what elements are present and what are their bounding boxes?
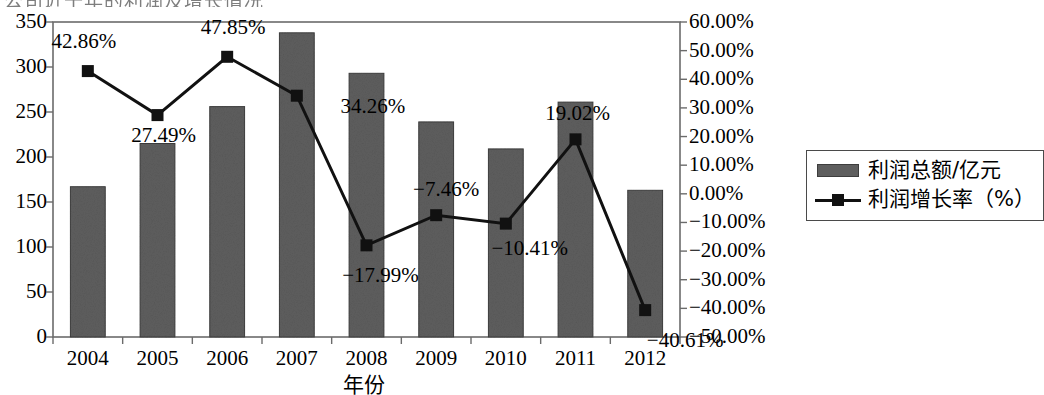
bar-2007 <box>279 33 314 337</box>
legend-item-bar: 利润总额/亿元 <box>815 156 1035 185</box>
data-label-2011: 19.02% <box>523 103 633 124</box>
marker-2011 <box>570 133 582 145</box>
bar-2005 <box>140 144 175 338</box>
data-label-2006: 47.85% <box>178 17 288 38</box>
data-label-2005: 27.49% <box>109 125 219 146</box>
data-label-2010: −10.41% <box>475 238 585 259</box>
marker-2006 <box>221 51 233 63</box>
data-label-2004: 42.86% <box>29 31 139 52</box>
legend-bar-label: 利润总额/亿元 <box>868 160 1001 181</box>
legend-line-label: 利润增长率（%） <box>868 189 1035 210</box>
data-label-2008: −17.99% <box>326 265 436 286</box>
marker-2007 <box>291 90 303 102</box>
bar-2009 <box>419 122 454 337</box>
marker-2009 <box>430 209 442 221</box>
legend-item-line: 利润增长率（%） <box>815 185 1035 214</box>
data-label-2009: −7.46% <box>391 179 501 200</box>
marker-2010 <box>500 218 512 230</box>
legend-bar-swatch-icon <box>815 156 861 185</box>
marker-2005 <box>152 109 164 121</box>
bar-2004 <box>70 187 105 337</box>
marker-2004 <box>82 65 94 77</box>
marker-2012 <box>639 304 651 316</box>
marker-2008 <box>361 239 373 251</box>
legend-line-marker-icon <box>815 185 861 214</box>
data-label-2007: 34.26% <box>318 96 428 117</box>
bar-series <box>70 33 662 337</box>
legend: 利润总额/亿元 利润增长率（%） <box>806 150 1044 221</box>
data-label-2012: −40.61% <box>630 330 740 351</box>
